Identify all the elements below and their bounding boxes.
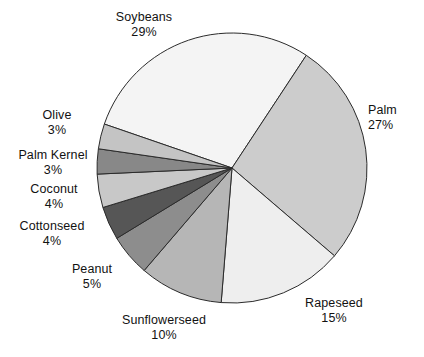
pie-label-coconut: Coconut 4% bbox=[12, 182, 96, 211]
pie-label-soybeans: Soybeans 29% bbox=[92, 10, 196, 39]
pie-label-peanut-value: 5% bbox=[58, 277, 126, 292]
pie-label-coconut-name: Coconut bbox=[12, 182, 96, 197]
pie-label-palm-name: Palm bbox=[368, 103, 422, 118]
pie-label-soybeans-value: 29% bbox=[92, 25, 196, 40]
pie-label-peanut-name: Peanut bbox=[58, 262, 126, 277]
pie-label-palm-kernel: Palm Kernel 3% bbox=[0, 148, 106, 177]
pie-label-cottonseed: Cottonseed 4% bbox=[1, 219, 103, 248]
pie-label-rapeseed: Rapeseed 15% bbox=[288, 296, 380, 325]
pie-label-rapeseed-name: Rapeseed bbox=[288, 296, 380, 311]
pie-label-soybeans-name: Soybeans bbox=[92, 10, 196, 25]
pie-label-sunflowerseed: Sunflowerseed 10% bbox=[96, 313, 232, 342]
pie-label-palm-value: 27% bbox=[368, 118, 422, 133]
pie-slice-group bbox=[97, 33, 367, 303]
pie-label-cottonseed-name: Cottonseed bbox=[1, 219, 103, 234]
pie-label-peanut: Peanut 5% bbox=[58, 262, 126, 291]
pie-label-olive-value: 3% bbox=[26, 123, 88, 138]
pie-label-coconut-value: 4% bbox=[12, 197, 96, 212]
pie-label-olive: Olive 3% bbox=[26, 108, 88, 137]
pie-label-palm-kernel-name: Palm Kernel bbox=[0, 148, 106, 163]
pie-label-palm-kernel-value: 3% bbox=[0, 163, 106, 178]
pie-chart: Soybeans 29% Palm 27% Rapeseed 15% Sunfl… bbox=[0, 0, 424, 357]
pie-label-olive-name: Olive bbox=[26, 108, 88, 123]
pie-label-sunflowerseed-value: 10% bbox=[96, 328, 232, 343]
pie-label-sunflowerseed-name: Sunflowerseed bbox=[96, 313, 232, 328]
pie-label-rapeseed-value: 15% bbox=[288, 311, 380, 326]
pie-label-palm: Palm 27% bbox=[368, 103, 422, 132]
pie-label-cottonseed-value: 4% bbox=[1, 234, 103, 249]
